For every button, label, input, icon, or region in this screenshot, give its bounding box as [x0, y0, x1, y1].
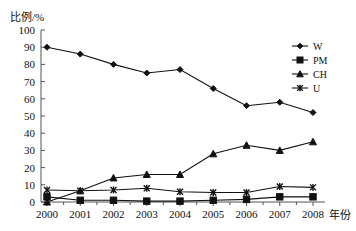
legend-item-w[interactable]: W [292, 41, 323, 52]
y-tick-label: 10 [24, 179, 36, 191]
legend-label: PM [313, 55, 328, 66]
series-w [44, 44, 316, 115]
x-tick-label: 2001 [69, 208, 91, 220]
x-tick-label: 2004 [169, 208, 192, 220]
y-tick-label: 100 [19, 24, 36, 36]
legend-item-pm[interactable]: PM [292, 55, 328, 66]
x-tick-label: 2006 [236, 208, 259, 220]
legend-label: U [313, 83, 321, 94]
series-group [44, 44, 317, 205]
y-tick-label: 60 [24, 93, 36, 105]
y-tick-label: 20 [24, 162, 36, 174]
chart-container: 比例/% 0102030405060708090100 200020012002… [0, 0, 356, 231]
y-tick-label: 30 [24, 144, 36, 156]
legend-label: CH [313, 69, 327, 80]
x-axis-label: 年份 [329, 208, 351, 221]
x-tick-label: 2003 [136, 208, 159, 220]
y-tick-label: 90 [24, 41, 36, 53]
y-tick-label: 40 [24, 127, 36, 139]
legend-item-u[interactable]: U [292, 83, 321, 94]
x-tick-label: 2008 [302, 208, 325, 220]
chart-legend: WPMCHU [292, 41, 328, 94]
y-tick-label: 80 [24, 58, 36, 70]
x-tick-label: 2007 [269, 208, 292, 220]
x-tick-label: 2005 [202, 208, 225, 220]
x-tick-label: 2002 [103, 208, 125, 220]
x-tick-label: 2000 [36, 208, 59, 220]
line-chart-plot: 0102030405060708090100 20002001200220032… [0, 0, 356, 231]
y-tick-label: 50 [24, 110, 36, 122]
legend-label: W [313, 41, 323, 52]
series-pm [44, 194, 316, 205]
y-tick-label: 0 [30, 196, 36, 208]
legend-item-ch[interactable]: CH [292, 69, 327, 80]
y-tick-label: 70 [24, 76, 36, 88]
